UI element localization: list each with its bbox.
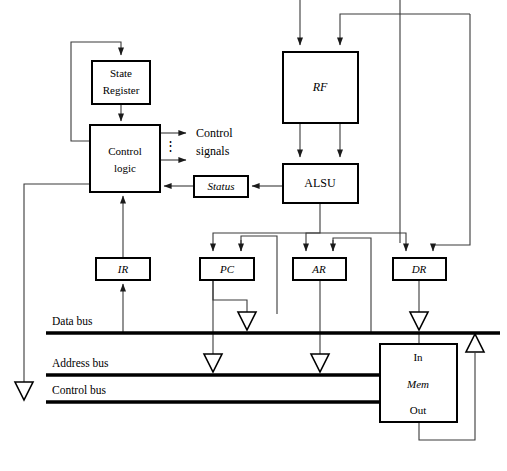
label-alsu: ALSU [304, 176, 336, 190]
label-mem-in: In [413, 351, 423, 363]
diagram-canvas: State Register Control logic Status RF A… [0, 0, 507, 471]
label-control-signals-line2: signals [196, 144, 230, 158]
label-control-bus: Control bus [52, 384, 107, 396]
block-group [90, 52, 457, 422]
label-state-register-line1: State [110, 67, 132, 79]
wire-group-control-unit [24, 42, 283, 388]
label-pc: PC [219, 263, 235, 275]
bus-driver-pc-address [204, 354, 222, 372]
wire-ar-loop-input [333, 238, 371, 333]
label-data-bus: Data bus [52, 315, 93, 327]
label-dr: DR [411, 263, 427, 275]
wire-alsu-output-to-ar [306, 233, 320, 251]
wire-group-datapath [213, 0, 470, 251]
bus-driver-control-logic-control [15, 382, 33, 400]
label-ir: IR [117, 263, 129, 275]
label-control-signals-line1: Control [196, 126, 233, 140]
wire-feedback-into-rf-right [340, 14, 470, 45]
bus-driver-ar-address [311, 354, 329, 372]
bus-driver-mem-out-data [466, 334, 484, 352]
architecture-diagram: State Register Control logic Status RF A… [0, 0, 507, 471]
label-control-logic-line2: logic [114, 162, 136, 174]
label-mem-out: Out [410, 404, 427, 416]
label-mem: Mem [406, 378, 429, 390]
label-control-signals-ellipsis: ⋮ [164, 138, 177, 153]
label-ar: AR [311, 263, 326, 275]
label-rf: RF [312, 80, 328, 94]
label-status: Status [208, 180, 235, 192]
wire-alsu-output-trunk [213, 203, 320, 251]
bus-driver-dr-data [410, 312, 428, 330]
label-address-bus: Address bus [52, 357, 109, 369]
wire-right-column-to-dr [433, 14, 470, 251]
label-control-logic-line1: Control [108, 145, 142, 157]
bus-driver-pc-data [238, 312, 256, 330]
wire-pc-out-to-data-bus-driver [213, 280, 247, 312]
block-control-logic[interactable] [90, 125, 160, 192]
label-state-register-line2: Register [103, 84, 140, 96]
